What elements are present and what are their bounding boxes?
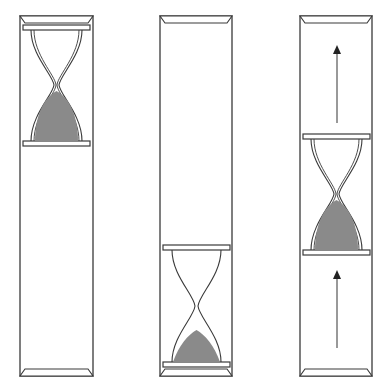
tube-panel-2: [160, 16, 232, 376]
tube-bottom-bevel: [300, 369, 372, 376]
tube-top-bevel: [20, 16, 93, 23]
tube-frame: [20, 16, 93, 376]
hourglass-diagram: [0, 0, 392, 387]
tube-bottom-bevel: [160, 369, 232, 376]
tube-bottom-bevel: [20, 369, 93, 376]
tube-panel-1: [20, 16, 93, 376]
tube-top-bevel: [300, 16, 372, 23]
tube-panel-3: [300, 16, 372, 376]
tube-frame: [300, 16, 372, 376]
tube-frame: [160, 16, 232, 376]
tube-top-bevel: [160, 16, 232, 23]
